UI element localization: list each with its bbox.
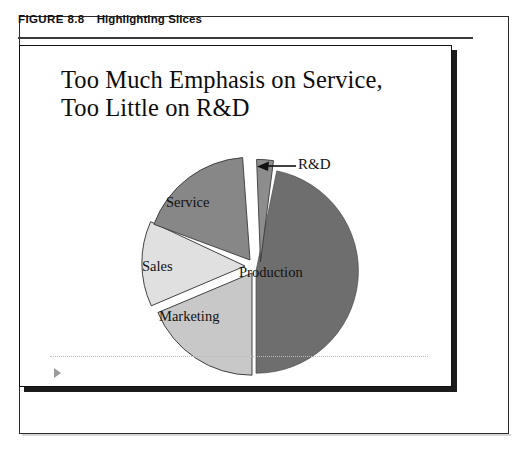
pie-label-rd: R&D: [298, 156, 331, 173]
figure-box-shadow: [22, 434, 511, 436]
figure-caption: FIGURE 8.8Highlighting Slices: [18, 13, 202, 25]
pie-slice-marketing[interactable]: [158, 273, 252, 375]
figure-caption-title: Highlighting Slices: [97, 13, 202, 25]
figure-number: FIGURE 8.8: [18, 13, 85, 25]
chart-frame: Too Much Emphasis on Service, Too Little…: [19, 45, 452, 387]
caption-divider: [18, 37, 473, 39]
chart-title-line-1: Too Much Emphasis on Service,: [61, 66, 441, 94]
chart-title-line-2: Too Little on R&D: [61, 94, 441, 122]
rd-callout-arrow-icon: [257, 162, 269, 172]
pie-label-service: Service: [166, 194, 209, 211]
pie-slice-rd[interactable]: [257, 159, 274, 262]
pie-label-marketing: Marketing: [159, 308, 219, 325]
chart-title: Too Much Emphasis on Service, Too Little…: [61, 66, 441, 122]
pie-slice-sales[interactable]: [142, 222, 245, 306]
bottom-divider: [50, 356, 428, 358]
pie-slice-production[interactable]: [256, 171, 358, 373]
pie-label-sales: Sales: [142, 258, 173, 275]
pie-slice-service[interactable]: [154, 158, 250, 260]
play-triangle-icon[interactable]: [54, 368, 61, 378]
pie-label-production: Production: [239, 264, 303, 281]
